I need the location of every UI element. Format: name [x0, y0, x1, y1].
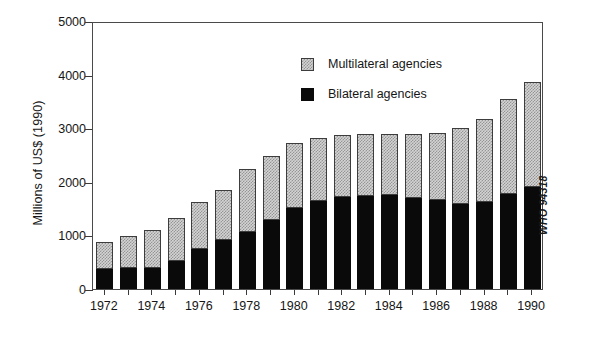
x-tick-mark — [104, 290, 105, 295]
bar-segment-multilateral — [239, 169, 256, 232]
bar-group — [500, 21, 517, 289]
legend-item-bilateral: Bilateral agencies — [301, 83, 442, 105]
bar-segment-bilateral — [239, 232, 256, 289]
bar-segment-multilateral — [310, 138, 327, 201]
x-tick-mark — [199, 290, 200, 295]
bar-segment-bilateral — [334, 197, 351, 289]
bar-segment-bilateral — [357, 196, 374, 289]
x-tick-label: 1988 — [470, 299, 498, 313]
y-tick-label: 1000 — [26, 229, 86, 243]
x-tick-mark — [270, 290, 271, 295]
legend-label-multilateral: Multilateral agencies — [328, 57, 442, 71]
x-tick-mark — [341, 290, 342, 295]
bar-segment-multilateral — [452, 128, 469, 204]
bar-segment-bilateral — [500, 194, 517, 289]
x-tick-label: 1986 — [422, 299, 450, 313]
x-tick-mark — [484, 290, 485, 295]
x-tick-mark — [175, 290, 176, 295]
bar-segment-multilateral — [144, 230, 161, 268]
bar-segment-multilateral — [191, 202, 208, 249]
bar-segment-multilateral — [524, 82, 541, 187]
bar-segment-multilateral — [120, 236, 137, 268]
x-tick-mark — [128, 290, 129, 295]
source-code-note: WHO 94318 — [537, 175, 549, 235]
chart-legend: Multilateral agencies Bilateral agencies — [301, 53, 442, 113]
legend-item-multilateral: Multilateral agencies — [301, 53, 442, 75]
bar-segment-multilateral — [168, 218, 185, 261]
x-tick-label: 1990 — [517, 299, 545, 313]
bar-segment-bilateral — [452, 204, 469, 289]
x-tick-label: 1978 — [232, 299, 260, 313]
bar-segment-multilateral — [357, 134, 374, 196]
bar-segment-bilateral — [263, 220, 280, 289]
chart-figure: Millions of US$ (1990) 01000200030004000… — [0, 0, 594, 343]
x-tick-label: 1976 — [185, 299, 213, 313]
bar-segment-multilateral — [381, 134, 398, 195]
x-tick-mark — [294, 290, 295, 295]
bilateral-swatch-icon — [301, 88, 314, 101]
x-tick-label: 1980 — [280, 299, 308, 313]
x-tick-mark — [151, 290, 152, 295]
x-tick-mark — [246, 290, 247, 295]
bar-segment-bilateral — [191, 249, 208, 289]
plot-area: Multilateral agencies Bilateral agencies — [92, 22, 543, 290]
bar-group — [96, 21, 113, 289]
bar-segment-bilateral — [310, 201, 327, 289]
bar-segment-multilateral — [476, 119, 493, 202]
bar-segment-multilateral — [405, 134, 422, 198]
y-tick-label: 0 — [26, 283, 86, 297]
bar-segment-bilateral — [286, 208, 303, 289]
multilateral-swatch-icon — [301, 58, 314, 71]
x-tick-mark — [365, 290, 366, 295]
x-tick-mark — [460, 290, 461, 295]
bar-segment-bilateral — [476, 202, 493, 289]
bar-segment-bilateral — [215, 240, 232, 289]
bar-group — [239, 21, 256, 289]
bar-group — [191, 21, 208, 289]
x-tick-label: 1982 — [327, 299, 355, 313]
x-tick-mark — [436, 290, 437, 295]
x-tick-mark — [318, 290, 319, 295]
y-tick-label: 2000 — [26, 176, 86, 190]
bar-group — [476, 21, 493, 289]
bar-segment-bilateral — [429, 200, 446, 289]
bar-group — [263, 21, 280, 289]
bar-group — [452, 21, 469, 289]
bar-segment-multilateral — [96, 242, 113, 269]
legend-label-bilateral: Bilateral agencies — [328, 87, 427, 101]
bar-segment-bilateral — [144, 268, 161, 289]
bar-segment-bilateral — [405, 198, 422, 289]
x-tick-mark — [412, 290, 413, 295]
bar-segment-multilateral — [500, 99, 517, 194]
bar-group — [120, 21, 137, 289]
x-tick-label: 1974 — [137, 299, 165, 313]
x-tick-label: 1972 — [90, 299, 118, 313]
x-tick-label: 1984 — [375, 299, 403, 313]
y-tick-label: 3000 — [26, 122, 86, 136]
bar-group — [168, 21, 185, 289]
y-tick-mark — [85, 290, 93, 291]
bar-segment-bilateral — [168, 261, 185, 289]
bar-segment-multilateral — [286, 143, 303, 207]
bar-group — [215, 21, 232, 289]
bar-segment-multilateral — [263, 156, 280, 220]
bar-segment-multilateral — [334, 135, 351, 197]
x-tick-mark — [389, 290, 390, 295]
x-tick-mark — [507, 290, 508, 295]
y-tick-label: 4000 — [26, 69, 86, 83]
x-tick-mark — [531, 290, 532, 295]
bar-segment-bilateral — [96, 269, 113, 289]
bar-group — [144, 21, 161, 289]
x-tick-mark — [223, 290, 224, 295]
bar-segment-multilateral — [215, 190, 232, 240]
bar-segment-bilateral — [120, 268, 137, 289]
y-tick-label: 5000 — [26, 15, 86, 29]
bar-group — [524, 21, 541, 289]
bar-segment-bilateral — [381, 195, 398, 289]
bar-segment-multilateral — [429, 133, 446, 201]
